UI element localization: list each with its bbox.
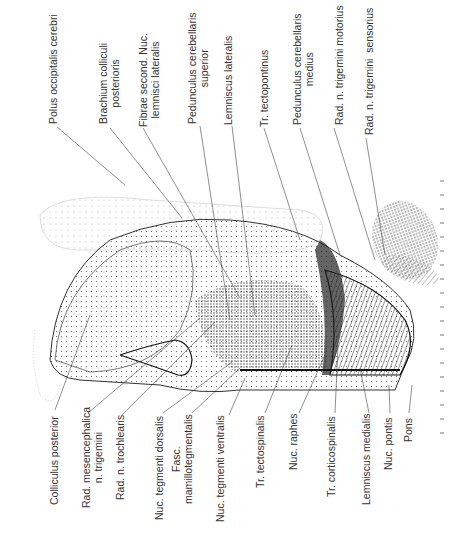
label-rad-trochlearis: Rad. n. trochlearis bbox=[114, 415, 126, 500]
label-nuc-raphes: Nuc. raphes bbox=[287, 413, 299, 470]
label-pedunculus-cerebellaris-superior: Pedunculus cerebellaris superior bbox=[186, 13, 210, 124]
label-rad-mesencephalica: Rad. mesencephalica n. trigemini bbox=[80, 407, 104, 508]
label-brachium-colliculi: Brachium colliculi posterioris bbox=[97, 43, 121, 124]
label-tr-tectospinalis: Tr. tectospinalis bbox=[254, 415, 266, 488]
label-fibrae-second: Fibrae second. Nuc. lemnisci lateralis bbox=[137, 33, 161, 127]
label-nuc-tegmenti-dorsalis: Nuc. tegmenti dorsalis bbox=[153, 416, 165, 520]
label-lemniscus-lateralis: Lemniscus lateralis bbox=[222, 36, 234, 125]
label-colliculus-posterior: Colliculus posterior bbox=[48, 416, 60, 505]
label-lemniscus-medialis: Lemniscus medialis bbox=[360, 413, 372, 505]
label-fasc-mamillotegmentalis: Fasc. mamillotegmentalis bbox=[170, 414, 194, 504]
label-tr-corticospinalis: Tr. corticospinalis bbox=[325, 416, 337, 497]
label-rad-trigemini-sensorius: Rad. n. trigemini sensorius bbox=[363, 8, 375, 135]
anatomical-figure: Polus occipitalis cerebri Brachium colli… bbox=[0, 0, 452, 538]
label-pons: Pons bbox=[402, 418, 414, 442]
label-rad-trigemini-motorius: Rad. n. trigemini motorius bbox=[333, 5, 345, 125]
label-pedunculus-cerebellaris-medius: Pedunculus cerebellaris medius bbox=[291, 14, 315, 125]
label-nuc-tegmenti-ventralis: Nuc. tegmenti ventralis bbox=[214, 415, 226, 522]
label-polus-occipitalis: Polus occipitalis cerebri bbox=[47, 14, 59, 124]
label-nuc-pontis: Nuc. pontis bbox=[382, 417, 394, 470]
label-tr-tectopontinus: Tr. tectopontinus bbox=[258, 50, 270, 127]
caption-bleed bbox=[440, 180, 444, 440]
